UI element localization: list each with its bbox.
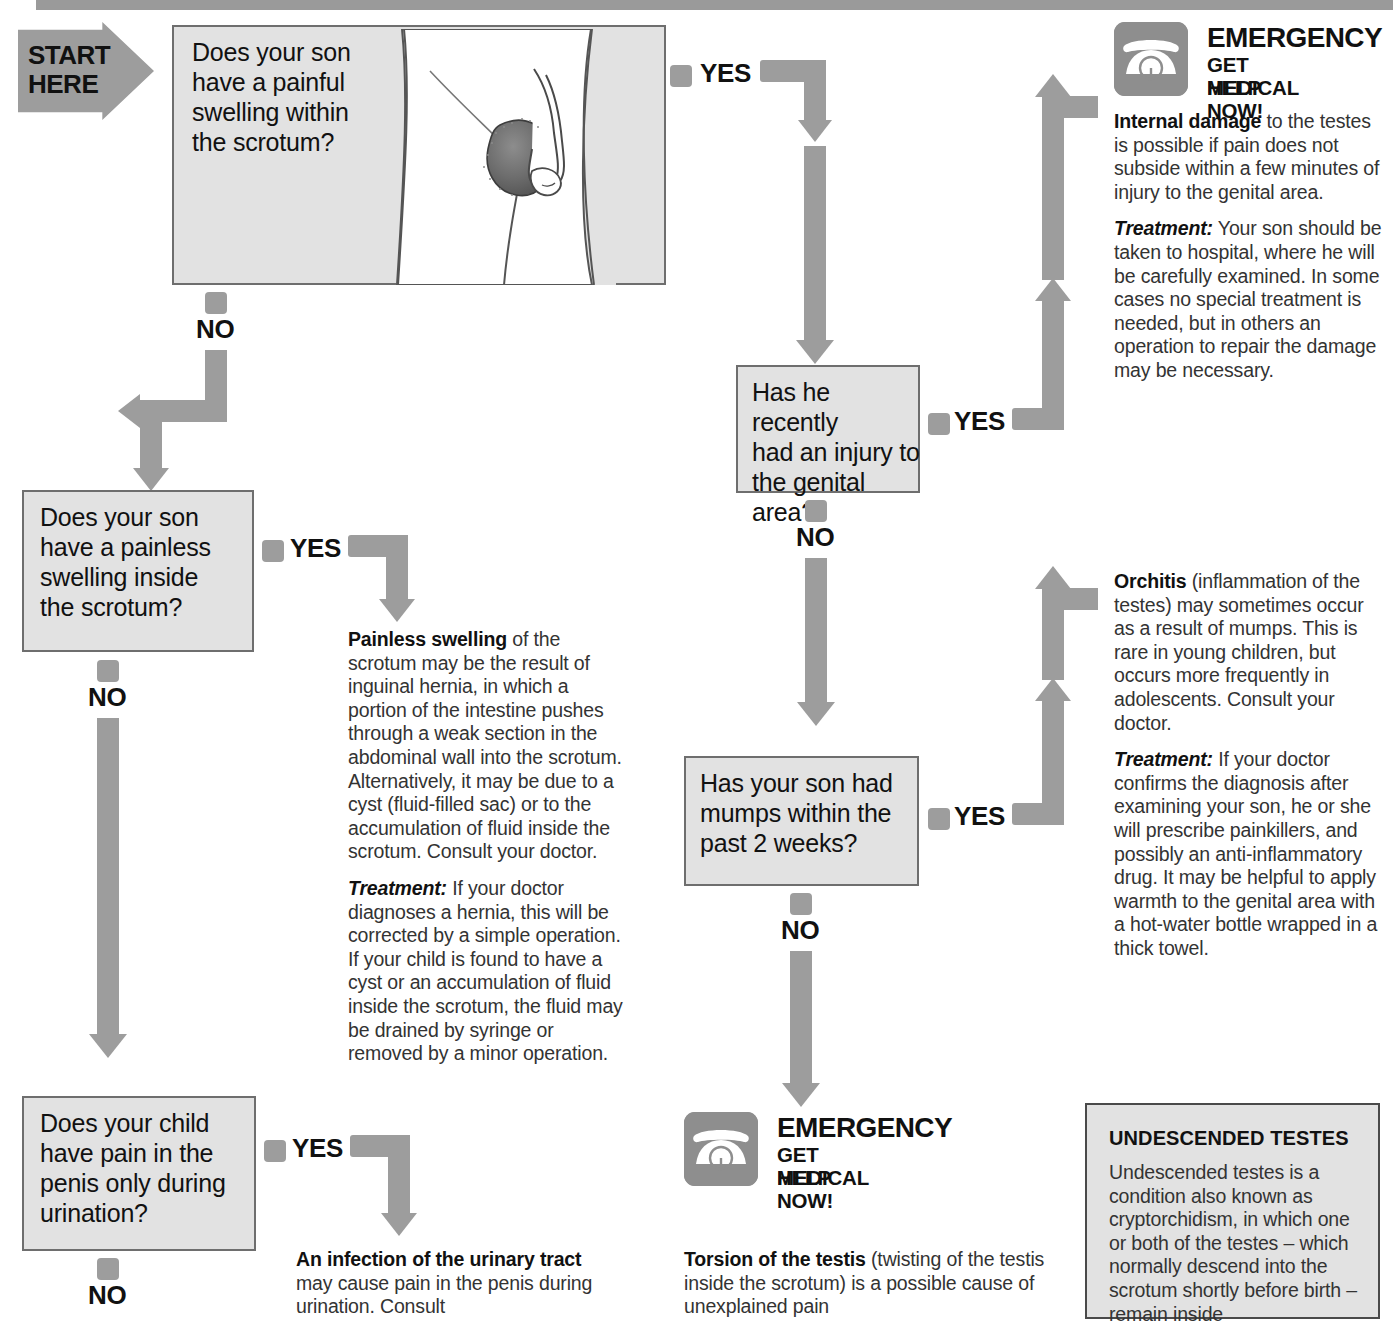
- yes-chip-q3: [262, 540, 284, 562]
- undescended-testes-body: Undescended testes is a condition also k…: [1109, 1161, 1359, 1325]
- question-box-q1: Does your son have a painful swelling wi…: [172, 25, 666, 285]
- connector-q2-yes-v2: [1042, 118, 1064, 280]
- connector-to-q2-arrowhead: [796, 340, 834, 364]
- connector-q2-yes-h2: [1042, 96, 1098, 118]
- no-label-q5: NO: [88, 1280, 126, 1311]
- yes-chip-q4: [928, 808, 950, 830]
- yes-chip-q1: [670, 65, 692, 87]
- undescended-testes-panel: UNDESCENDED TESTES Undescended testes is…: [1085, 1103, 1380, 1319]
- connector-q3-no-arrowhead: [89, 1034, 127, 1058]
- no-label-q4: NO: [781, 915, 819, 946]
- connector-q3-yes-v: [386, 535, 408, 603]
- yes-label-q5: YES: [292, 1133, 343, 1164]
- question-box-q3: Does your son have a painless swelling i…: [22, 490, 254, 652]
- yes-chip-q5: [264, 1140, 286, 1162]
- question-box-q5: Does your child have pain in the penis o…: [22, 1096, 256, 1251]
- connector-q2-yes-arrowhead: [1035, 278, 1071, 301]
- advice-orchitis-lead: Orchitis: [1114, 570, 1187, 592]
- advice-internal-damage-body: Internal damage to the testes is possibl…: [1114, 110, 1386, 204]
- no-label-q3: NO: [88, 682, 126, 713]
- connector-q2-yes-v: [1042, 300, 1064, 430]
- advice-urinary-infection-lead: An infection of the urinary tract: [296, 1248, 581, 1270]
- question-q5-text: Does your child have pain in the penis o…: [40, 1108, 255, 1228]
- advice-internal-damage-lead: Internal damage: [1114, 110, 1261, 132]
- advice-internal-damage: Internal damage to the testes is possibl…: [1114, 110, 1386, 383]
- no-label-q2: NO: [796, 522, 834, 553]
- question-box-q2: Has he recently had an injury to the gen…: [736, 365, 920, 493]
- connector-q2-no-v: [805, 558, 827, 706]
- connector-q4-yes-v2: [1042, 610, 1064, 680]
- yes-label-q2: YES: [954, 406, 1005, 437]
- connector-q4-yes-arrowhead: [1035, 678, 1071, 701]
- connector-q1-no-arrowhead-left: [118, 394, 140, 428]
- emergency-title: EMERGENCY: [1207, 24, 1382, 51]
- yes-label-q3: YES: [290, 533, 341, 564]
- yes-chip-q2: [928, 413, 950, 435]
- advice-painless-swelling: Painless swelling of the scrotum may be …: [348, 628, 624, 1066]
- telephone-icon: [684, 1112, 758, 1186]
- advice-torsion: Torsion of the testis (twisting of the t…: [684, 1248, 1084, 1319]
- connector-q5-yes-arrowhead: [381, 1213, 417, 1236]
- question-q3-text: Does your son have a painless swelling i…: [40, 502, 250, 622]
- connector-q5-yes-v: [388, 1135, 410, 1217]
- advice-orchitis-treatment: Treatment: If your doctor confirms the d…: [1114, 748, 1386, 960]
- connector-q1-no-arrowhead-down: [133, 468, 169, 491]
- connector-q2-no-arrowhead: [797, 702, 835, 726]
- connector-q4-yes-v: [1042, 700, 1064, 825]
- treatment-label: Treatment:: [1114, 217, 1213, 239]
- emergency-subtitle-line2: HELP NOW!: [777, 1166, 833, 1212]
- connector-to-q2-shaft: [804, 146, 826, 346]
- question-q4-text: Has your son had mumps within the past 2…: [700, 768, 920, 858]
- emergency-title: EMERGENCY: [777, 1114, 952, 1141]
- connector-q1-yes-arrowhead: [798, 120, 832, 142]
- connector-q2-yes-arrowhead2: [1035, 74, 1071, 97]
- no-chip-q2: [805, 500, 827, 522]
- connector-q4-yes-h2: [1042, 588, 1098, 610]
- connector-q3-no-v: [97, 718, 119, 1038]
- emergency-block-torsion: EMERGENCY GET MEDICAL HELP NOW!: [684, 1112, 758, 1186]
- question-q1-text: Does your son have a painful swelling wi…: [192, 37, 382, 157]
- advice-painless-swelling-lead: Painless swelling: [348, 628, 507, 650]
- no-label-q1: NO: [196, 314, 234, 345]
- no-chip-q5: [97, 1258, 119, 1280]
- connector-q4-no-arrowhead: [782, 1083, 820, 1107]
- connector-q4-yes-arrowhead2: [1035, 566, 1071, 589]
- scrotum-illustration: [396, 29, 616, 285]
- advice-orchitis-body: Orchitis (inflammation of the testes) ma…: [1114, 570, 1386, 735]
- advice-torsion-lead: Torsion of the testis: [684, 1248, 866, 1270]
- telephone-icon: [1114, 22, 1188, 96]
- advice-torsion-body: Torsion of the testis (twisting of the t…: [684, 1248, 1084, 1319]
- yes-label-q1: YES: [700, 58, 751, 89]
- advice-painless-swelling-body: Painless swelling of the scrotum may be …: [348, 628, 624, 864]
- connector-q1-no-v2: [140, 400, 162, 472]
- advice-orchitis: Orchitis (inflammation of the testes) ma…: [1114, 570, 1386, 961]
- treatment-label: Treatment:: [1114, 748, 1213, 770]
- no-chip-q1: [205, 292, 227, 314]
- undescended-testes-heading: UNDESCENDED TESTES: [1109, 1127, 1349, 1150]
- emergency-block-internal-damage: EMERGENCY GET MEDICAL HELP NOW!: [1114, 22, 1188, 96]
- treatment-label: Treatment:: [348, 877, 447, 899]
- connector-q1-yes-v: [804, 60, 826, 124]
- page-top-rule-notch: [0, 0, 36, 10]
- connector-q3-yes-arrowhead: [379, 599, 415, 622]
- question-box-q4: Has your son had mumps within the past 2…: [684, 756, 919, 886]
- advice-urinary-infection: An infection of the urinary tract may ca…: [296, 1248, 596, 1319]
- page-top-rule: [0, 0, 1393, 10]
- advice-internal-damage-treatment: Treatment: Your son should be taken to h…: [1114, 217, 1386, 382]
- no-chip-q3: [97, 660, 119, 682]
- yes-label-q4: YES: [954, 801, 1005, 832]
- advice-painless-swelling-treatment: Treatment: If your doctor diagnoses a he…: [348, 877, 624, 1066]
- no-chip-q4: [790, 893, 812, 915]
- connector-q4-no-v: [790, 951, 812, 1087]
- start-here-label: STARTHERE: [28, 41, 110, 99]
- start-here-arrow: STARTHERE: [18, 22, 154, 120]
- advice-urinary-infection-body: An infection of the urinary tract may ca…: [296, 1248, 596, 1319]
- question-q2-text: Has he recently had an injury to the gen…: [752, 377, 922, 527]
